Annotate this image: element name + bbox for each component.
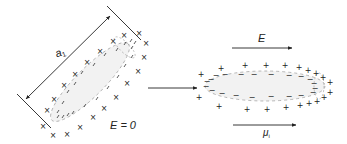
svg-text:−: − [298,91,305,100]
svg-text:+: + [198,70,205,79]
svg-text:+: + [327,78,334,87]
moment-label: μi [262,127,270,139]
svg-text:×: × [113,93,120,102]
svg-text:×: × [40,122,47,131]
svg-text:×: × [50,131,57,140]
svg-text:+: + [244,105,251,114]
svg-text:+: + [196,93,203,102]
svg-text:−: − [238,70,245,79]
svg-text:×: × [121,31,128,40]
svg-text:−: − [209,86,216,95]
svg-text:−: − [268,70,275,79]
svg-text:+: + [314,97,321,106]
svg-text:×: × [61,81,68,90]
svg-text:×: × [51,95,58,104]
left-panel: a1 [17,6,149,140]
svg-text:+: + [263,61,270,70]
svg-text:+: + [327,88,334,97]
svg-text:−: − [298,72,305,81]
svg-text:+: + [216,102,223,111]
svg-text:+: + [242,61,249,70]
svg-text:+: + [320,73,327,82]
svg-text:+: + [306,99,313,108]
svg-text:−: − [310,88,317,97]
svg-text:×: × [97,47,104,56]
dimension-label: a1 [53,45,67,61]
svg-text:×: × [143,39,150,48]
svg-text:×: × [136,29,143,38]
svg-text:−: − [286,71,293,80]
svg-text:×: × [64,130,71,139]
svg-text:×: × [44,106,51,115]
svg-text:×: × [77,123,84,132]
svg-text:×: × [90,113,97,122]
svg-text:+: + [218,64,225,73]
svg-text:×: × [141,53,148,62]
svg-text:×: × [135,67,142,76]
svg-text:+: + [296,63,303,72]
svg-text:+: + [283,103,290,112]
svg-text:−: − [286,92,293,101]
polarization-diagram: a1 [0,0,347,144]
field-label: E [258,32,266,44]
svg-text:+: + [321,93,328,102]
svg-text:−: − [268,92,275,101]
svg-text:+: + [282,61,289,70]
svg-text:+: + [264,105,271,114]
zero-field-label: E = 0 [110,119,137,131]
svg-text:−: − [219,89,226,98]
svg-text:×: × [84,58,91,67]
svg-text:×: × [101,104,108,113]
svg-text:×: × [110,37,117,46]
svg-text:+: + [305,66,312,75]
svg-text:−: − [233,91,240,100]
svg-text:×: × [124,79,131,88]
svg-text:−: − [249,93,256,102]
svg-text:−: − [251,70,258,79]
right-panel: E − − − − − − − − − − − − − − − − − − − [196,32,334,139]
svg-text:+: + [297,101,304,110]
svg-text:×: × [72,70,79,79]
svg-text:+: + [313,69,320,78]
